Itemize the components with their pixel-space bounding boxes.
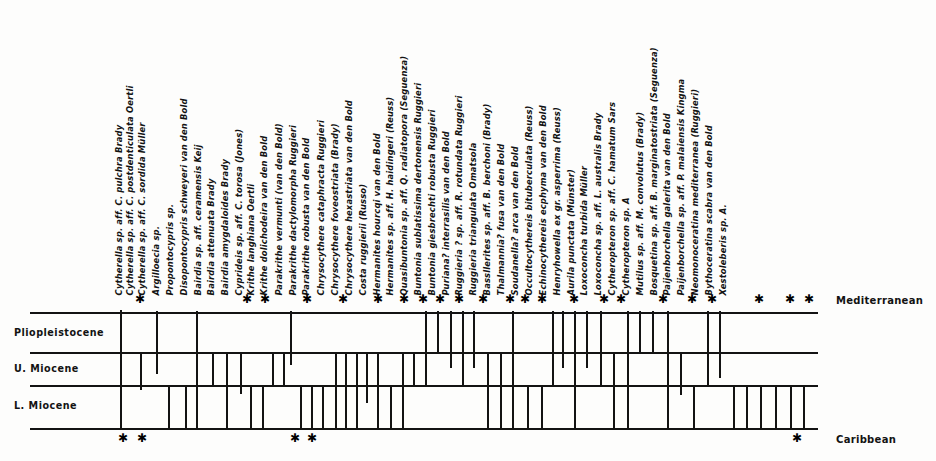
range-bar bbox=[390, 385, 392, 428]
range-bar bbox=[250, 385, 252, 428]
range-bar bbox=[527, 385, 529, 428]
range-bar bbox=[356, 352, 358, 428]
range-bar bbox=[212, 352, 214, 385]
range-bar bbox=[450, 311, 452, 368]
range-bar bbox=[790, 385, 792, 428]
range-bar bbox=[775, 385, 777, 428]
range-bar bbox=[574, 311, 576, 428]
range-bar bbox=[311, 385, 313, 428]
range-bar bbox=[667, 311, 669, 428]
range-bar bbox=[541, 385, 543, 428]
range-bar bbox=[156, 311, 158, 374]
range-bar bbox=[627, 311, 629, 428]
range-bar bbox=[746, 385, 748, 428]
range-bar bbox=[733, 385, 735, 428]
range-bar bbox=[120, 310, 122, 428]
range-bar bbox=[760, 385, 762, 428]
epoch-boundary-line bbox=[30, 312, 818, 314]
epoch-boundary-line bbox=[30, 428, 818, 430]
region-caption-caribbean: Caribbean bbox=[836, 434, 896, 445]
range-bar bbox=[512, 311, 514, 428]
range-bar bbox=[473, 311, 475, 368]
range-bar bbox=[803, 385, 805, 428]
range-bar bbox=[140, 352, 142, 390]
range-bar bbox=[600, 311, 602, 385]
range-bar bbox=[437, 311, 439, 352]
range-bar bbox=[413, 352, 415, 385]
range-bar bbox=[693, 385, 695, 428]
range-bar bbox=[335, 352, 337, 428]
epoch-label-lower-miocene: L. Miocene bbox=[14, 400, 77, 411]
range-bar bbox=[196, 311, 198, 428]
range-bar bbox=[707, 311, 709, 385]
range-bar bbox=[680, 352, 682, 395]
range-bar bbox=[487, 352, 489, 428]
range-bar bbox=[613, 352, 615, 428]
range-bar bbox=[290, 311, 292, 365]
range-bar bbox=[226, 352, 228, 428]
range-bar bbox=[500, 352, 502, 428]
range-bar bbox=[652, 311, 654, 352]
range-bar bbox=[262, 385, 264, 428]
range-bar bbox=[283, 352, 285, 385]
range-bar bbox=[719, 311, 721, 378]
epoch-boundary-line bbox=[30, 352, 818, 354]
range-bar bbox=[168, 385, 170, 428]
range-bar bbox=[300, 385, 302, 428]
range-bar bbox=[562, 311, 564, 368]
range-chart-figure: Cytherella sp. aff. C. pulchra BradyCyth… bbox=[0, 0, 936, 461]
range-bar bbox=[240, 352, 242, 394]
range-bar bbox=[322, 385, 324, 428]
epoch-label-upper-miocene: U. Miocene bbox=[14, 363, 79, 374]
range-bar bbox=[377, 352, 379, 428]
region-caption-mediterranean: Mediterranean bbox=[836, 295, 923, 306]
range-bar bbox=[586, 311, 588, 368]
range-bar bbox=[462, 311, 464, 385]
range-bar bbox=[552, 311, 554, 385]
range-bar bbox=[425, 311, 427, 385]
epoch-label-pliopleistocene: Pliopleistocene bbox=[14, 327, 104, 338]
range-grid bbox=[0, 0, 936, 461]
range-bar bbox=[185, 385, 187, 428]
range-bar bbox=[272, 352, 274, 387]
range-bar bbox=[402, 352, 404, 428]
epoch-boundary-line bbox=[30, 385, 818, 387]
range-bar bbox=[345, 352, 347, 428]
range-bar bbox=[366, 352, 368, 403]
range-bar bbox=[639, 311, 641, 352]
